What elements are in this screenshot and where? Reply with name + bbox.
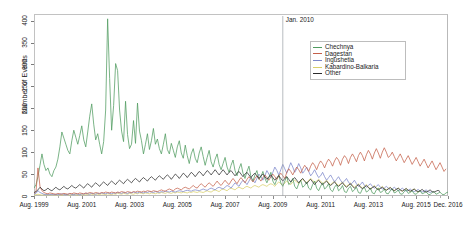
legend-label: Other: [325, 70, 341, 77]
legend-color-swatch: [313, 73, 322, 74]
legend-item: Other: [313, 70, 402, 77]
chart-figure: Number of Events 05010015020025030035040…: [0, 0, 463, 230]
legend-color-swatch: [313, 53, 322, 54]
legend-color-swatch: [313, 67, 322, 68]
legend-color-swatch: [313, 60, 322, 61]
plot-series-area: [0, 0, 463, 230]
legend-color-swatch: [313, 47, 322, 48]
series-line-other: [34, 170, 440, 193]
legend: ChechnyaDagestanIngushetiaKabardino-Balk…: [310, 41, 406, 80]
annotation-jan-2010: Jan. 2010: [286, 16, 314, 23]
